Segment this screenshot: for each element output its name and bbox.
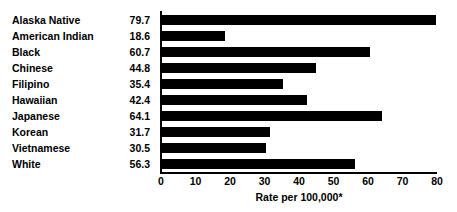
bar [161, 111, 382, 121]
chart-row: Japanese64.1 [0, 108, 457, 124]
value-label: 31.7 [100, 124, 150, 140]
bar-track [161, 12, 437, 28]
y-axis-line [160, 11, 162, 173]
category-label: Filipino [12, 76, 49, 92]
value-label: 30.5 [100, 140, 150, 156]
x-tick-label: 70 [388, 175, 418, 187]
bar [161, 95, 307, 105]
chart-row: Chinese44.8 [0, 60, 457, 76]
x-axis-line [160, 172, 437, 174]
chart-row: American Indian18.6 [0, 28, 457, 44]
category-label: Japanese [12, 108, 60, 124]
value-label: 44.8 [100, 60, 150, 76]
category-label: Vietnamese [12, 140, 70, 156]
chart-rows: Alaska Native79.7American Indian18.6Blac… [0, 12, 457, 172]
chart-row: Hawaiian42.4 [0, 92, 457, 108]
value-label: 35.4 [100, 76, 150, 92]
chart-row: Filipino35.4 [0, 76, 457, 92]
x-tick-label: 20 [215, 175, 245, 187]
bar-chart: Alaska Native79.7American Indian18.6Blac… [0, 0, 457, 212]
category-label: White [12, 156, 41, 172]
x-tick-label: 10 [181, 175, 211, 187]
x-tick-label: 40 [284, 175, 314, 187]
value-label: 79.7 [100, 12, 150, 28]
category-label: American Indian [12, 28, 94, 44]
bar-track [161, 124, 437, 140]
bar [161, 63, 316, 73]
chart-row: Black60.7 [0, 44, 457, 60]
bar [161, 143, 266, 153]
category-label: Alaska Native [12, 12, 80, 28]
bar-track [161, 108, 437, 124]
bar [161, 127, 270, 137]
bar [161, 47, 370, 57]
bar-track [161, 44, 437, 60]
bar [161, 79, 283, 89]
bar [161, 15, 436, 25]
chart-row: White56.3 [0, 156, 457, 172]
bar-track [161, 92, 437, 108]
value-label: 42.4 [100, 92, 150, 108]
bar-track [161, 28, 437, 44]
value-label: 56.3 [100, 156, 150, 172]
bar-track [161, 140, 437, 156]
chart-row: Vietnamese30.5 [0, 140, 457, 156]
x-tick-label: 0 [146, 175, 176, 187]
x-tick-label: 60 [353, 175, 383, 187]
value-label: 64.1 [100, 108, 150, 124]
x-tick-label: 30 [250, 175, 280, 187]
bar [161, 31, 225, 41]
bar-track [161, 76, 437, 92]
category-label: Hawaiian [12, 92, 58, 108]
bar-track [161, 156, 437, 172]
x-axis-title: Rate per 100,000* [161, 191, 437, 203]
category-label: Chinese [12, 60, 53, 76]
value-label: 60.7 [100, 44, 150, 60]
category-label: Black [12, 44, 40, 60]
bar-track [161, 60, 437, 76]
x-tick-label: 50 [319, 175, 349, 187]
x-tick-label: 80 [422, 175, 452, 187]
chart-row: Alaska Native79.7 [0, 12, 457, 28]
category-label: Korean [12, 124, 48, 140]
chart-row: Korean31.7 [0, 124, 457, 140]
value-label: 18.6 [100, 28, 150, 44]
bar [161, 159, 355, 169]
